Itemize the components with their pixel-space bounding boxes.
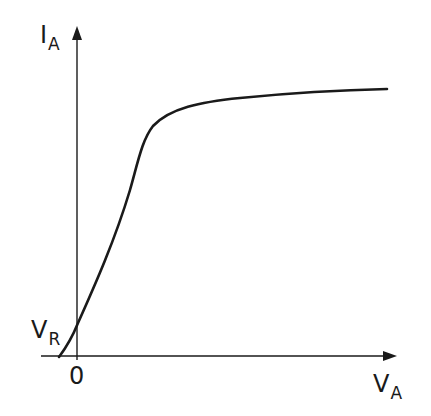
x-axis-arrow-icon	[383, 351, 397, 361]
diagram-canvas	[0, 0, 431, 416]
origin-label: 0	[69, 364, 84, 388]
intercept-label: VR	[31, 318, 60, 342]
y-axis-label: IA	[40, 23, 60, 47]
x-axis-label: VA	[373, 372, 402, 396]
characteristic-curve	[59, 89, 387, 357]
y-axis-arrow-icon	[72, 26, 82, 40]
